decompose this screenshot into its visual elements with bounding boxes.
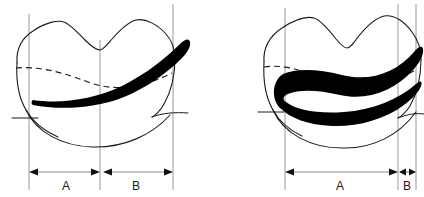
- right-dimension-a-label: A: [336, 179, 344, 193]
- right-dimension-b-label: B: [403, 179, 411, 193]
- canvas-background: [0, 0, 424, 197]
- left-dimension-a-label: A: [62, 179, 70, 193]
- tooth-preparation-diagram: A B: [0, 0, 424, 197]
- left-dimension-b-label: B: [132, 179, 140, 193]
- figure-root: A B: [0, 0, 424, 197]
